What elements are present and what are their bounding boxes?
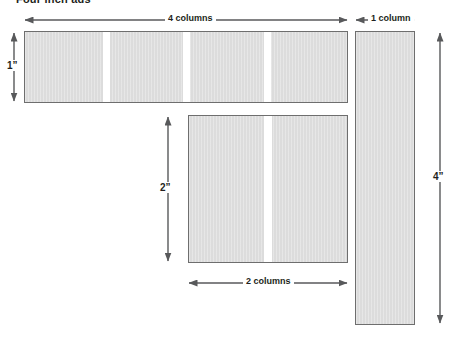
diagram-canvas: Four inch ads 4 colum: [0, 0, 460, 340]
four-column-ad-block: [24, 31, 348, 103]
label-four-columns: 4 columns: [165, 13, 216, 23]
column-gutter: [183, 32, 190, 102]
label-height-one-inch: 1”: [4, 60, 21, 71]
label-two-columns: 2 columns: [243, 276, 294, 286]
column-gutter: [264, 32, 271, 102]
label-height-two-inch: 2”: [157, 182, 174, 193]
two-column-ad-block: [188, 115, 348, 263]
column-gutter: [103, 32, 110, 102]
page-title: Four inch ads: [16, 0, 91, 5]
label-one-column: 1 column: [368, 13, 414, 23]
label-height-four-inch: 4”: [430, 171, 447, 182]
one-column-ad-block: [355, 31, 415, 325]
column-gutter: [264, 116, 272, 262]
